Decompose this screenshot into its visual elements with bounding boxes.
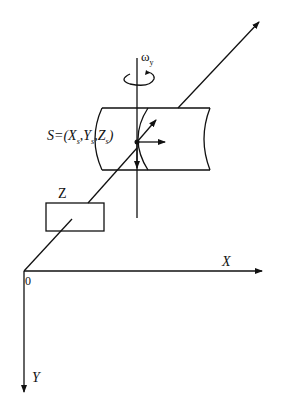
sensor-box (46, 203, 104, 231)
omega-label: ωy (141, 49, 154, 67)
x-axis-label: X (222, 254, 231, 270)
origin-label: 0 (25, 274, 31, 289)
point-s-label: S=(Xs,Ys,Zs) (47, 128, 113, 146)
s-y: ,Y (80, 128, 91, 143)
s-close: ) (109, 128, 114, 143)
y-axis-label: Y (32, 370, 40, 386)
omega-symbol: ω (141, 49, 150, 64)
z-line-lower (24, 219, 72, 271)
s-z: ,Z (94, 128, 105, 143)
omega-subscript: y (150, 58, 154, 67)
z-box-label: Z (58, 186, 67, 202)
coordinate-diagram: ωy S=(Xs,Ys,Zs) Z X Y 0 (0, 0, 282, 412)
point-s (135, 140, 140, 145)
s-prefix: S=(X (47, 128, 77, 143)
z-line-mid (88, 148, 137, 203)
cylinder-right-end (204, 108, 210, 170)
frame-arrow-diag (137, 120, 156, 142)
rotation-arrow (124, 72, 154, 85)
z-line-upper (178, 22, 259, 108)
